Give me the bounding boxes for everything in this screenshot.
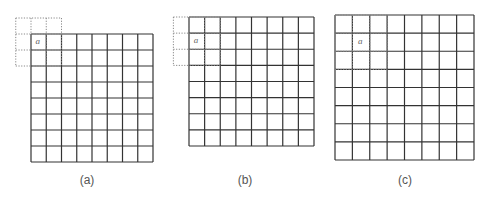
panel-a: a bbox=[16, 18, 153, 162]
cell-marker-c: a bbox=[358, 36, 363, 46]
caption-a: (a) bbox=[80, 173, 95, 187]
cell-marker-a: a bbox=[36, 36, 41, 46]
grid-c bbox=[335, 15, 474, 160]
figure-canvas: aaa bbox=[0, 0, 488, 199]
grid-b bbox=[189, 17, 314, 146]
panel-b: a bbox=[173, 17, 314, 146]
cell-marker-b: a bbox=[194, 35, 199, 45]
caption-c: (c) bbox=[398, 173, 412, 187]
caption-b: (b) bbox=[238, 173, 253, 187]
grid-a bbox=[31, 34, 153, 162]
panel-c: a bbox=[335, 15, 474, 160]
